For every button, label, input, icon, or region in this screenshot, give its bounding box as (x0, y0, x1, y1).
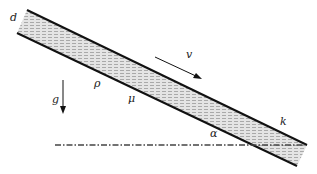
label-thickness: d (10, 12, 17, 23)
gravity-arrow (60, 80, 66, 114)
label-density: ρ (94, 78, 100, 89)
fluid-layer (17, 10, 307, 166)
diagram-canvas (0, 0, 317, 174)
free-surface-line (27, 10, 307, 145)
label-surface: k (280, 116, 287, 127)
label-viscosity: μ (128, 93, 135, 104)
label-velocity: v (186, 49, 192, 60)
label-angle: α (210, 128, 217, 139)
label-gravity: g (52, 94, 59, 105)
